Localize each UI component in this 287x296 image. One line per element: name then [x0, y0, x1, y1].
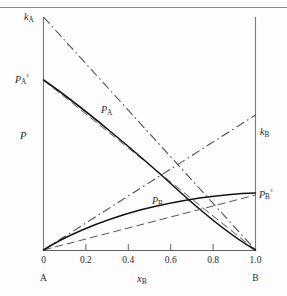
x-tick-label-0: 0	[34, 256, 54, 266]
label-pb-std-degree: °	[270, 188, 273, 196]
partial-pressure-curve-b	[44, 193, 256, 250]
label-k-a-sub: A	[28, 16, 33, 24]
x-tick-label-0-6: 0.6	[161, 256, 181, 266]
x-axis-title: xB	[137, 274, 147, 285]
henry-law-line-a	[44, 17, 256, 250]
label-pb-sub: B	[158, 200, 163, 208]
label-standard-pressure-b: PB°	[259, 189, 273, 201]
x-axis-ticks	[86, 244, 213, 250]
x-endpoint-label-b: B	[246, 274, 266, 284]
figure-container: kA PA° PA PB kB PB° P xB 0 0.2 0.4 0.6 0…	[0, 0, 287, 296]
x-tick-label-1-0: 1.0	[246, 256, 266, 266]
raoult-law-line-b	[44, 195, 256, 250]
label-k-b-sub: B	[264, 131, 269, 139]
label-pa-std-degree: °	[26, 73, 29, 81]
x-tick-label-0-4: 0.4	[118, 256, 138, 266]
label-partial-pressure-a: PA	[101, 105, 112, 117]
label-standard-pressure-a: PA°	[15, 74, 29, 86]
x-endpoint-label-a: A	[34, 274, 54, 284]
vapor-pressure-plot	[0, 0, 287, 296]
y-axis-title: P	[20, 131, 26, 142]
henry-law-line-b	[44, 115, 256, 250]
x-tick-label-0-2: 0.2	[76, 256, 96, 266]
x-tick-label-0-8: 0.8	[203, 256, 223, 266]
label-henry-constant-a: kA	[24, 12, 34, 24]
label-henry-constant-b: kB	[260, 127, 269, 139]
label-pa-sub: A	[107, 109, 112, 117]
label-partial-pressure-b: PB	[152, 196, 163, 208]
x-axis-title-sub: B	[142, 277, 147, 286]
